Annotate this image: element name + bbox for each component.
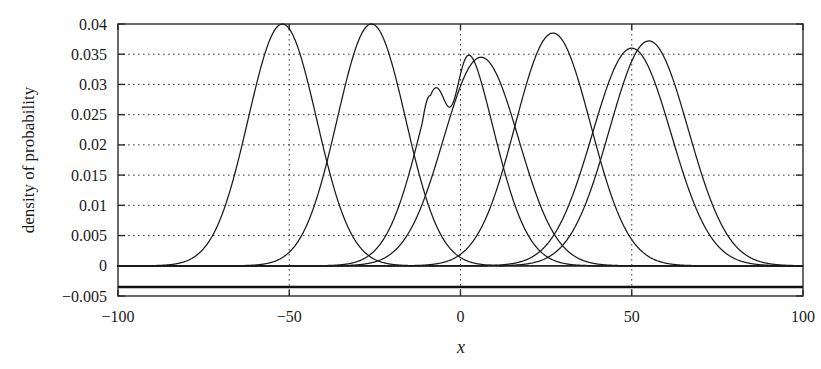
x-tick-label: 0 [457,308,465,325]
y-tick-label: 0.005 [71,227,107,244]
x-tick-label: 50 [624,308,640,325]
y-axis-title: density of probability [19,86,38,233]
y-tick-label: −0.005 [62,288,107,305]
chart-figure: −0.00500.0050.010.0150.020.0250.030.0350… [0,0,821,369]
y-tick-label: 0.025 [71,106,107,123]
y-tick-label: 0.015 [71,167,107,184]
x-axis-title: x [456,337,465,357]
x-axis-tick-labels: −100−50050100 [101,308,815,325]
density-curve [118,48,803,266]
y-tick-label: 0.01 [79,197,107,214]
y-tick-label: 0.02 [79,136,107,153]
y-tick-label: 0.04 [79,16,107,33]
y-tick-label: 0 [99,257,107,274]
x-tick-label: −100 [101,308,134,325]
y-tick-label: 0.035 [71,46,107,63]
y-axis-tick-labels: −0.00500.0050.010.0150.020.0250.030.0350… [62,16,107,305]
x-tick-label: −50 [277,308,302,325]
x-tick-label: 100 [791,308,815,325]
grid-layer [118,24,803,296]
probability-density-chart: −0.00500.0050.010.0150.020.0250.030.0350… [0,0,821,369]
y-tick-label: 0.03 [79,76,107,93]
